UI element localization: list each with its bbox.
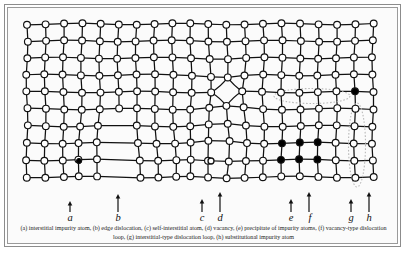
lattice-atom	[134, 105, 141, 112]
lattice-atom	[369, 54, 376, 61]
pointer-label-c: c	[195, 212, 209, 224]
lattice-atom	[168, 37, 175, 44]
lattice-atom	[79, 37, 86, 44]
lattice-atom	[223, 21, 230, 28]
lattice-atom	[296, 72, 303, 79]
pointer-label-f: f	[303, 212, 317, 224]
lattice-atom	[370, 89, 377, 96]
pointer-label-e: e	[284, 212, 298, 224]
lattice-atom	[205, 38, 212, 45]
lattice-atom	[61, 174, 68, 181]
lattice-atom	[369, 123, 376, 130]
impurity-atom	[296, 139, 303, 146]
lattice-atom	[150, 37, 157, 44]
lattice-atom	[224, 38, 231, 45]
lattice-atom	[261, 54, 268, 61]
lattice-atom	[42, 123, 49, 130]
lattice-atom	[173, 173, 180, 180]
lattice-atom	[79, 89, 86, 96]
lattice-atom	[370, 174, 377, 181]
lattice-atom	[260, 157, 267, 164]
lattice-atom	[297, 55, 304, 62]
interstitial-impurity-atom	[76, 158, 81, 163]
lattice-atom	[351, 71, 358, 78]
lattice-atom	[42, 21, 49, 28]
lattice-atom	[315, 122, 322, 129]
lattice-atom	[169, 106, 176, 113]
impurity-atom	[314, 156, 321, 163]
lattice-atom	[278, 89, 285, 96]
lattice-atom	[24, 122, 31, 129]
lattice-atom	[42, 54, 49, 61]
lattice-atom	[172, 140, 179, 147]
lattice-atom	[187, 106, 194, 113]
pointer-arrow-head-f	[307, 192, 312, 196]
lattice-atom	[93, 139, 100, 146]
atom-layer	[23, 20, 377, 182]
lattice-atom	[316, 105, 323, 112]
lattice-bond	[97, 176, 140, 177]
lattice-atom	[296, 89, 303, 96]
lattice-atom	[297, 123, 304, 130]
lattice-atom	[95, 122, 102, 129]
lattice-atom	[187, 156, 194, 163]
lattice-atom	[242, 38, 249, 45]
lattice-atom	[261, 123, 268, 130]
lattice-atom	[334, 174, 341, 181]
lattice-atom	[155, 174, 162, 181]
lattice-atom	[187, 173, 194, 180]
pointer-label-a: a	[63, 212, 77, 224]
lattice-atom	[334, 21, 341, 28]
lattice-atom	[133, 71, 140, 78]
lattice-bond	[97, 159, 140, 160]
lattice-atom	[224, 74, 231, 81]
lattice-atom	[240, 104, 247, 111]
lattice-atom	[187, 139, 194, 146]
lattice-atom	[225, 158, 232, 165]
lattice-atom	[243, 158, 250, 165]
lattice-atom	[297, 20, 304, 27]
pointer-arrow-row: abcdefgh	[17, 190, 388, 226]
lattice-atom	[94, 173, 101, 180]
lattice-atom	[115, 88, 122, 95]
lattice-atom	[23, 157, 30, 164]
lattice-atom	[315, 21, 322, 28]
crystal-lattice-diagram	[17, 13, 388, 191]
lattice-atom	[170, 123, 177, 130]
lattice-atom	[41, 71, 48, 78]
impurity-atom	[279, 140, 286, 147]
lattice-atom	[188, 89, 195, 96]
lattice-atom	[260, 20, 267, 27]
lattice-atom	[60, 123, 67, 130]
lattice-atom	[333, 122, 340, 129]
lattice-atom	[59, 140, 66, 147]
lattice-atom	[24, 55, 31, 62]
lattice-atom	[42, 174, 49, 181]
lattice-atom	[260, 71, 267, 78]
lattice-atom	[333, 55, 340, 62]
lattice-atom	[332, 139, 339, 146]
lattice-bond	[97, 142, 138, 143]
lattice-atom	[61, 37, 68, 44]
lattice-atom	[279, 106, 286, 113]
lattice-atom	[352, 21, 359, 28]
lattice-atom	[23, 174, 30, 181]
lattice-atom	[23, 88, 30, 95]
lattice-atom	[78, 55, 85, 62]
lattice-atom	[150, 54, 157, 61]
lattice-atom	[208, 89, 215, 96]
lattice-atom	[352, 174, 359, 181]
lattice-atom	[315, 55, 322, 62]
lattice-atom	[115, 72, 122, 79]
lattice-atom	[205, 174, 212, 181]
lattice-atom	[170, 89, 177, 96]
lattice-atom	[334, 105, 341, 112]
lattice-atom	[208, 74, 215, 81]
lattice-atom	[350, 140, 357, 147]
lattice-atom	[352, 37, 359, 44]
lattice-atom	[43, 37, 50, 44]
lattice-atom	[155, 157, 162, 164]
impurity-atom	[314, 139, 321, 146]
lattice-atom	[169, 54, 176, 61]
lattice-atom	[205, 21, 212, 28]
